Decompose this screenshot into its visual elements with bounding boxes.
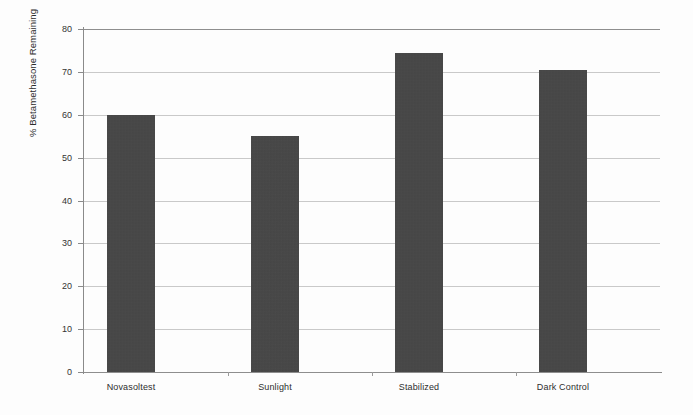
y-tick-label: 60 [46, 109, 72, 119]
bar [107, 115, 155, 372]
y-tick-label: 50 [46, 152, 72, 162]
x-tick-label: Dark Control [537, 382, 589, 392]
x-tick-label: Novasoltest [107, 382, 156, 392]
x-tick-mark [228, 372, 229, 376]
y-tick-label: 80 [46, 24, 72, 34]
bar [539, 70, 587, 372]
y-tick-label: 70 [46, 66, 72, 76]
y-axis-title: % Betamethasone Remaining [27, 0, 41, 158]
x-tick-mark [372, 372, 373, 376]
y-tick-mark [78, 372, 84, 373]
y-tick-label: 40 [46, 195, 72, 205]
plot-area [84, 29, 660, 372]
y-tick-label: 20 [46, 281, 72, 291]
x-tick-label: Stabilized [399, 382, 440, 392]
bar [395, 53, 443, 372]
y-tick-label: 30 [46, 238, 72, 248]
y-tick-label: 0 [46, 367, 72, 377]
bar-chart-figure: % Betamethasone Remaining 01020304050607… [0, 0, 693, 415]
x-tick-mark [516, 372, 517, 376]
x-tick-label: Sunlight [258, 382, 292, 392]
bar [251, 136, 299, 372]
y-tick-label: 10 [46, 324, 72, 334]
